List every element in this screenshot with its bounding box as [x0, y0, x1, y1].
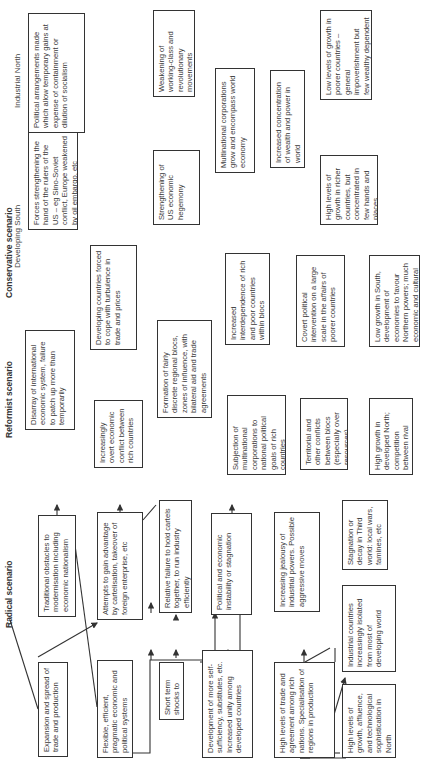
box-high-growth-north: High levels of growth, affluence, and te…	[342, 684, 396, 758]
developing-south-label: Developing South	[13, 205, 22, 268]
box-developing-forced: Developing countries forced to cope with…	[90, 245, 137, 350]
box-attempts-cartelisation: Attempts to gain advantage by cartelisat…	[97, 512, 143, 620]
box-low-growth-poorer: Low levels of growth in poorer countries…	[320, 10, 372, 100]
box-high-trade: High levels of trade and agreement among…	[274, 662, 335, 758]
box-traditional-obstacles: Traditional obstacles to modernisation i…	[38, 515, 76, 617]
reformist-scenario-heading: Reformist scenario	[4, 361, 14, 438]
box-formation-blocs: Formation of fairly discrete regional bl…	[157, 320, 212, 418]
box-flexible-systems: Flexible, efficient, pragmatic economic …	[97, 660, 133, 758]
box-forces-strengthening: Forces strengthening the hand of the rul…	[28, 128, 78, 230]
box-expansion: Expansion and spread of trade and produc…	[38, 662, 68, 757]
box-increased-concentration: Increased concentration of wealth and po…	[270, 70, 305, 168]
box-development-self-sufficiency: Development of more self-sufficiency, su…	[202, 650, 253, 758]
box-territorial-conflicts: Territorial and other conflicts between …	[300, 398, 348, 470]
industrial-north-label: Industrial North	[13, 54, 22, 108]
box-political-arrangements: Political arrangements made which allow …	[28, 13, 85, 133]
scenario-flow-diagram: Conservative scenario Industrial North D…	[0, 0, 435, 773]
box-short-term-shocks: Short term shocks to economies	[159, 662, 184, 720]
box-disarray: Disarray of international economic syste…	[25, 330, 75, 430]
box-industrial-isolated: Industrial countries increasingly isolat…	[342, 585, 396, 672]
box-weakening-working-class: Weakening of working-class and revolutio…	[153, 10, 195, 97]
box-low-growth-south: Low growth in South, development of econ…	[369, 255, 420, 347]
radical-scenario-heading: Radical scenario	[4, 560, 14, 628]
box-covert-intervention: Covert political intervention on a large…	[296, 255, 345, 347]
box-increasing-jealousy: Increasing jealousy of industrial powers…	[274, 512, 320, 612]
box-relative-failure: Relative failure to hold cartels togethe…	[159, 500, 192, 613]
box-overt-conflict: Increasingly overt economic conflict bet…	[94, 400, 143, 468]
box-high-growth-richer: High levels of growth in richer countrie…	[320, 155, 378, 225]
box-political-instability: Political and economic instability or st…	[211, 513, 252, 615]
box-interdependence: Increased interdependence of rich and po…	[225, 253, 270, 345]
box-subjection-multinationals: Subjection of multinational corporations…	[227, 395, 286, 475]
box-stagnation-third-world: Stagnation or decay in Third world: loca…	[342, 500, 388, 570]
box-multinationals-grow: Multinational corporations grow and enco…	[215, 68, 255, 173]
box-high-growth-developed-north: High growth in developed North; competit…	[369, 398, 413, 475]
box-strengthening-us-hegemony: Strengthening of US economic hegemony	[153, 150, 200, 225]
